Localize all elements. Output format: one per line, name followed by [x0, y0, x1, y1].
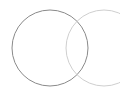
venn-diagram: [0, 0, 120, 95]
right-circle: [66, 10, 120, 86]
diagram-canvas: [0, 0, 120, 95]
